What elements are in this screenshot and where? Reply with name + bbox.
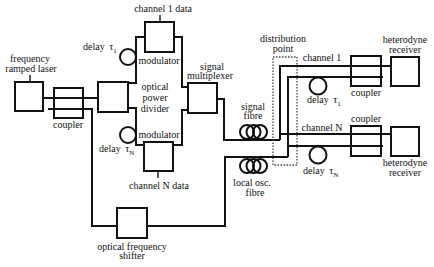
local-osc-fibre-label-line-2: fibre bbox=[246, 187, 265, 198]
fibre-coil-icon bbox=[240, 159, 267, 173]
system-diagram: frequency ramped laser coupler optical p… bbox=[0, 0, 434, 267]
fibre-coil-icon bbox=[240, 125, 267, 139]
receiver-label-line-2: receiver bbox=[389, 167, 422, 178]
signal-fibre: signal fibre bbox=[217, 99, 280, 140]
laser-box bbox=[15, 82, 43, 111]
heterodyne-receiver-box bbox=[391, 57, 419, 86]
delay-label: delay τN bbox=[303, 165, 338, 179]
coupler-box bbox=[54, 88, 83, 118]
laser-label-line-2: ramped laser bbox=[5, 63, 57, 74]
delay-loop-icon bbox=[310, 78, 327, 95]
receiver-coupler-box bbox=[351, 126, 381, 156]
delay-loop-icon bbox=[310, 147, 327, 164]
distribution-point-box bbox=[273, 57, 297, 165]
distribution-label-line-2: point bbox=[273, 43, 294, 54]
local-osc-fibre: local osc. fibre bbox=[147, 157, 288, 226]
delay-label: delay τN bbox=[99, 143, 134, 157]
frequency-ramped-laser: frequency ramped laser bbox=[5, 53, 57, 111]
modulator-1-box bbox=[145, 22, 174, 52]
receiver-coupler-label: coupler bbox=[351, 87, 382, 98]
coupler-label: coupler bbox=[53, 119, 84, 130]
signal-fibre-label-line-2: fibre bbox=[244, 110, 263, 121]
shifter-label-line-2: shifter bbox=[119, 250, 145, 261]
multiplexer-label-line-2: multiplexer bbox=[187, 70, 234, 81]
modulator-n-label: modulator bbox=[138, 129, 180, 140]
delay-label: delay τ1 bbox=[83, 41, 117, 55]
channel-1-branch: delay τ1 channel 1 data modulator bbox=[83, 3, 192, 87]
channel-1-data-label: channel 1 data bbox=[134, 3, 192, 14]
receiver-channel-1: channel 1 delay τ1 coupler heterodyne re… bbox=[303, 34, 428, 108]
divider-label-line-1: optical bbox=[141, 81, 168, 92]
receiver-coupler-box bbox=[351, 56, 381, 86]
modulator-1-label: modulator bbox=[138, 55, 180, 66]
divider-label-line-2: power bbox=[143, 92, 169, 103]
receiver-label-line-2: receiver bbox=[389, 44, 422, 55]
channel-n-branch: delay τN channel N data modulator bbox=[99, 108, 190, 191]
delay-loop-icon bbox=[120, 49, 136, 65]
receiver-coupler-label: coupler bbox=[351, 113, 382, 124]
multiplexer-box bbox=[188, 83, 217, 113]
delay-loop-icon bbox=[120, 127, 136, 143]
heterodyne-receiver-box bbox=[391, 127, 419, 156]
optical-power-divider: optical power divider bbox=[98, 81, 170, 114]
modulator-n-box bbox=[144, 142, 173, 171]
delay-label: delay τ1 bbox=[307, 94, 341, 108]
shifter-box bbox=[117, 208, 147, 238]
optical-frequency-shifter: optical frequency shifter bbox=[97, 208, 167, 261]
channel-1-label: channel 1 bbox=[303, 52, 342, 63]
channel-n-data-label: channel N data bbox=[129, 180, 190, 191]
divider-box bbox=[98, 82, 128, 112]
signal-multiplexer: signal multiplexer bbox=[187, 61, 234, 113]
channel-n-label: channel N bbox=[302, 122, 343, 133]
divider-label-line-3: divider bbox=[141, 103, 170, 114]
